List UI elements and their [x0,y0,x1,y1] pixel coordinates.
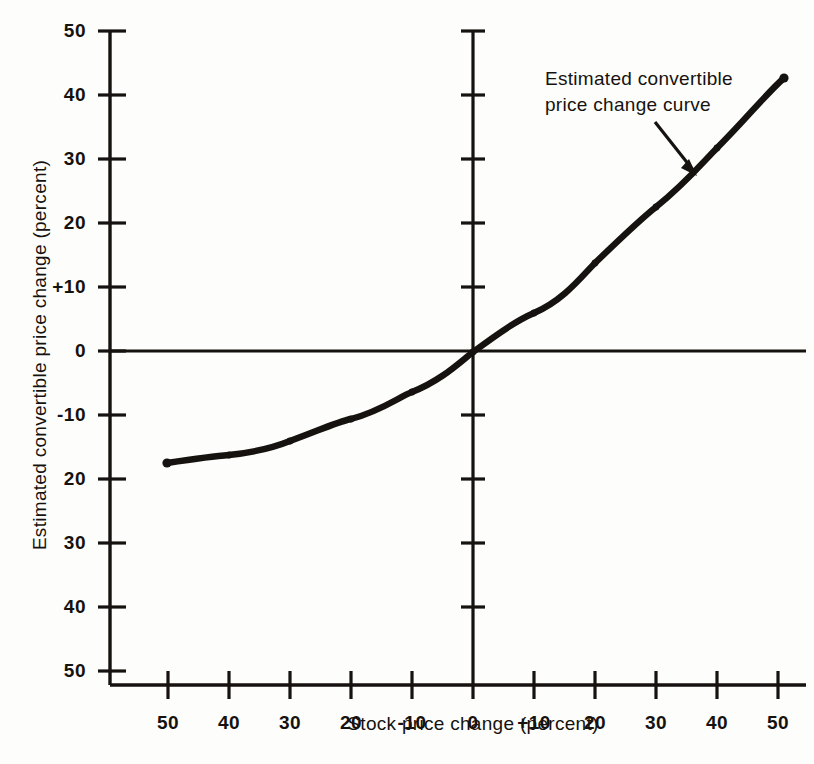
curve-annotation-line-1: Estimated convertible [545,66,733,92]
y-tick-label-minus20: 20 [64,468,86,490]
chart-figure: 50 40 30 20 -10 0 +10 20 30 40 50 50 40 … [0,0,814,764]
x-axis-title: Stock price change (percent) [347,713,598,735]
y-tick-label-minus10: -10 [57,404,86,426]
x-tick-label-plus30: 30 [645,712,667,734]
y-tick-label-minus40: 40 [64,596,86,618]
y-tick-label-plus10: +10 [52,276,86,298]
data-point-markers [162,73,788,467]
y-tick-label-plus40: 40 [64,84,86,106]
x-tick-label-minus50: 50 [157,712,179,734]
x-tick-label-plus40: 40 [706,712,728,734]
convertible-price-change-curve [167,78,784,463]
y-tick-label-minus30: 30 [64,532,86,554]
y-axis-title: Estimated convertible price change (perc… [29,160,51,550]
y-axis-ticks [98,31,126,671]
x-tick-label-minus40: 40 [218,712,240,734]
y-tick-label-zero: 0 [75,340,86,362]
curve-annotation-line-2: price change curve [545,92,733,118]
x-tick-label-minus30: 30 [279,712,301,734]
curve-annotation: Estimated convertible price change curve [545,66,733,118]
annotation-arrow [655,122,697,176]
y-tick-label-minus50: 50 [64,660,86,682]
x-tick-label-plus50: 50 [767,712,789,734]
y-tick-label-plus30: 30 [64,148,86,170]
y-tick-label-plus20: 20 [64,212,86,234]
y-tick-label-plus50: 50 [64,20,86,42]
